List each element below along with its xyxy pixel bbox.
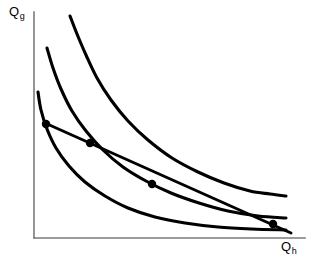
data-point-marker [269, 220, 277, 228]
indifference-curve-outer [70, 16, 286, 196]
plot-area [0, 0, 316, 263]
x-axis-label-base: Q [281, 239, 291, 254]
y-axis-label-subscript: g [20, 11, 25, 21]
curves-group [38, 16, 291, 233]
x-axis-label: Qh [281, 240, 296, 253]
y-axis-label-base: Q [9, 4, 19, 19]
indifference-curve-inner [38, 92, 286, 230]
y-axis-label: Qg [9, 5, 24, 18]
x-axis-label-subscript: h [292, 246, 297, 256]
data-point-marker [148, 180, 156, 188]
data-point-marker [42, 120, 50, 128]
figure-container: Qg Qh [0, 0, 316, 263]
data-point-marker [86, 139, 94, 147]
axes-group [34, 12, 305, 238]
